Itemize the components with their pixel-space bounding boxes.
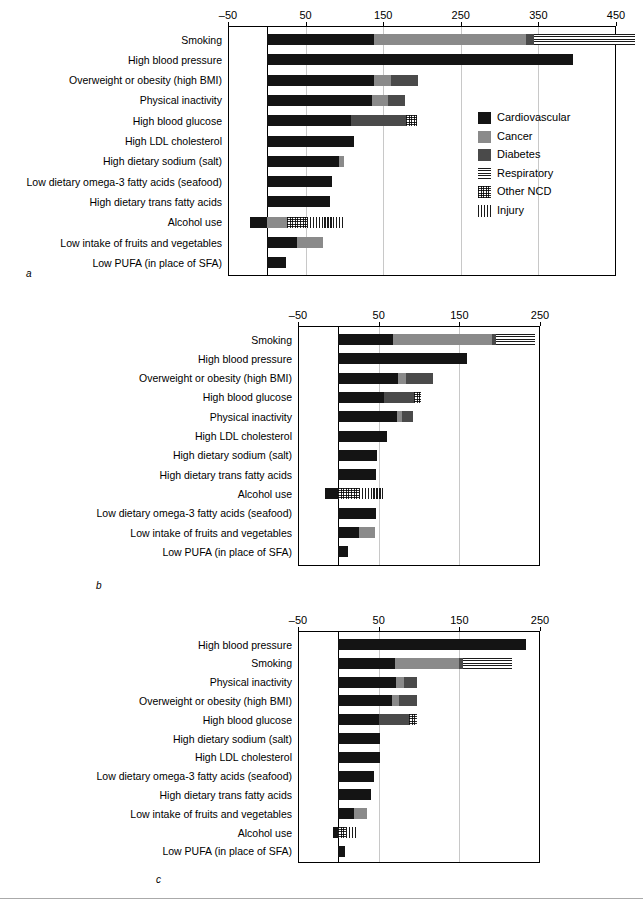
bar-segment-diabetes — [351, 115, 407, 126]
x-tick-label: 450 — [607, 10, 625, 21]
legend-item: Diabetes — [478, 147, 628, 163]
x-tick-mark — [379, 322, 380, 326]
x-tick-label: 250 — [531, 615, 549, 626]
x-tick-label: –50 — [289, 615, 307, 626]
bar-segment-respiratory — [534, 34, 636, 45]
bar-segment-cancer — [372, 95, 388, 106]
bar-segment-cardiovascular — [267, 176, 332, 187]
bar-segment-cardiovascular — [267, 34, 374, 45]
bar-segment-cardiovascular — [267, 196, 331, 207]
bar-segment-cardiovascular — [338, 639, 526, 650]
legend-label: Cardiovascular — [497, 111, 570, 124]
bar-segment-cancer — [396, 677, 404, 688]
bar-segment-diabetes — [402, 411, 413, 422]
bar-row — [0, 54, 643, 65]
bar-row — [0, 508, 643, 519]
bar-segment-cardiovascular — [338, 353, 467, 364]
bar-segment-cardiovascular — [338, 527, 359, 538]
bar-segment-cardiovascular — [338, 771, 373, 782]
bar-segment-cancer — [267, 217, 287, 228]
bar-row — [0, 827, 643, 838]
bar-segment-cancer — [354, 808, 366, 819]
panel-a-letter: a — [26, 268, 32, 279]
figure-page: –5050150250350450 SmokingHigh blood pres… — [0, 0, 643, 904]
bar-segment-cardiovascular — [267, 75, 374, 86]
bar-row — [0, 431, 643, 442]
bar-row — [0, 95, 643, 106]
bar-segment-cardiovascular — [267, 136, 354, 147]
bar-segment-cardiovascular — [267, 115, 351, 126]
legend-label: Other NCD — [497, 185, 551, 198]
bar-row — [0, 450, 643, 461]
bar-segment-diabetes — [404, 677, 417, 688]
legend-swatch-diabetes-icon — [478, 149, 491, 161]
bar-row — [0, 771, 643, 782]
bar-row — [0, 411, 643, 422]
bar-row — [0, 75, 643, 86]
x-tick-mark — [379, 627, 380, 631]
bar-row — [0, 257, 643, 268]
bar-segment-cancer — [374, 34, 526, 45]
x-tick-mark — [459, 627, 460, 631]
bar-row — [0, 527, 643, 538]
x-tick-label: 350 — [529, 10, 547, 21]
bar-row — [0, 846, 643, 857]
x-tick-mark — [540, 627, 541, 631]
bar-row — [0, 808, 643, 819]
bar-row — [0, 392, 643, 403]
bar-row — [0, 695, 643, 706]
bar-segment-cancer — [393, 334, 491, 345]
bar-segment-cardiovascular — [338, 373, 398, 384]
footer-rule — [0, 898, 643, 899]
bar-segment-cardiovascular — [338, 392, 384, 403]
bar-row — [0, 789, 643, 800]
x-tick-label: –50 — [289, 310, 307, 321]
bar-segment-cancer — [398, 373, 406, 384]
bar-segment-diabetes — [391, 75, 418, 86]
bar-segment-other-ncd — [409, 714, 416, 725]
bar-segment-other-ncd — [287, 217, 307, 228]
legend-item: Injury — [478, 203, 628, 219]
bar-row — [0, 733, 643, 744]
bar-segment-other-ncd — [414, 392, 420, 403]
panel-b-letter: b — [96, 580, 102, 591]
bar-segment-cancer — [395, 658, 460, 669]
x-tick-label: 250 — [452, 10, 470, 21]
bar-segment-cardiovascular — [338, 808, 354, 819]
bar-segment-cardiovascular — [338, 695, 391, 706]
bar-row — [0, 334, 643, 345]
x-tick-mark — [461, 22, 462, 26]
x-tick-mark — [540, 322, 541, 326]
bar-row — [0, 546, 643, 557]
bar-segment-cardiovascular — [338, 752, 380, 763]
bar-segment-cardiovascular — [338, 508, 376, 519]
x-tick-label: –50 — [219, 10, 237, 21]
x-tick-mark — [616, 22, 617, 26]
bar-segment-diabetes — [388, 95, 405, 106]
bar-segment-cardiovascular — [338, 677, 396, 688]
bar-row — [0, 714, 643, 725]
bar-segment-cardiovascular — [338, 714, 378, 725]
x-tick-label: 150 — [450, 310, 468, 321]
legend-label: Injury — [497, 204, 524, 217]
bar-segment-cardiovascular — [338, 658, 394, 669]
bar-segment-cardiovascular — [267, 95, 373, 106]
bar-segment-cancer — [359, 527, 374, 538]
panel-c-letter: c — [156, 874, 161, 885]
bar-row — [0, 34, 643, 45]
legend-swatch-cardio-icon — [478, 112, 491, 124]
bar-segment-cardiovascular — [338, 431, 386, 442]
bar-segment-injury — [307, 217, 344, 228]
bar-row — [0, 353, 643, 364]
bar-row — [0, 237, 643, 248]
legend-label: Diabetes — [497, 148, 540, 161]
legend: CardiovascularCancerDiabetesRespiratoryO… — [478, 110, 628, 221]
legend-item: Other NCD — [478, 184, 628, 200]
bar-segment-cardiovascular — [267, 54, 574, 65]
x-tick-label: 50 — [373, 615, 385, 626]
bar-segment-diabetes — [399, 695, 418, 706]
bar-segment-diabetes — [406, 373, 433, 384]
bar-segment-other-ncd — [338, 488, 359, 499]
bar-segment-diabetes — [526, 34, 534, 45]
bar-segment-cardiovascular — [338, 546, 348, 557]
